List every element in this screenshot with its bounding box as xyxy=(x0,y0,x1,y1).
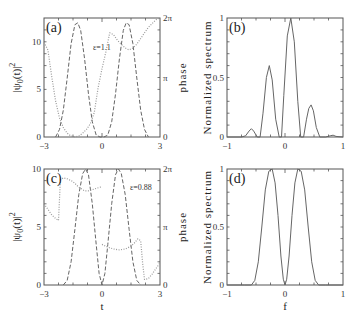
x-tick-label: −3 xyxy=(39,141,49,151)
y-tick-label: 1 xyxy=(220,13,225,23)
epsilon-annotation: ε=0.88 xyxy=(130,183,152,192)
y-tick-label: 0 xyxy=(220,132,225,142)
y2-tick-label: 2π xyxy=(163,13,173,23)
y-axis-title: Normalized spectrum xyxy=(201,21,213,135)
y2-axis-title: phase xyxy=(176,62,188,92)
x-tick-label: 0 xyxy=(100,289,105,299)
x-tick-label: 0 xyxy=(283,289,288,299)
plot-frame xyxy=(227,169,343,285)
y2-tick-label: π xyxy=(163,222,168,232)
y-tick-label: 5 xyxy=(37,222,42,232)
x-tick-label: −3 xyxy=(39,289,49,299)
y2-tick-label: 0 xyxy=(163,132,168,142)
x-tick-label: 0 xyxy=(283,141,288,151)
y2-tick-label: 2π xyxy=(163,164,173,174)
y-tick-label: 0.5 xyxy=(213,222,225,232)
x-tick-label: −1 xyxy=(222,289,232,299)
y-axis-title: Normalized spectrum xyxy=(201,170,213,284)
series-spectrum xyxy=(227,169,343,285)
y-tick-label: 10 xyxy=(32,37,42,47)
y-tick-label: 0.5 xyxy=(213,73,225,83)
x-tick-label: 1 xyxy=(341,289,346,299)
epsilon-annotation: ε=1.1 xyxy=(93,43,111,52)
panel-a-time-domain: −30305100π2π|ψ0(t)|2phase(a)ε=1.1 xyxy=(8,13,188,151)
panel-label: (d) xyxy=(229,171,246,187)
y-tick-label: 5 xyxy=(37,84,42,94)
x-tick-label: 0 xyxy=(100,141,105,151)
y-axis-title: |ψ0(t)|2 xyxy=(8,212,25,242)
x-tick-label: 3 xyxy=(158,141,163,151)
y2-tick-label: 0 xyxy=(163,280,168,290)
x-tick-label: −1 xyxy=(222,141,232,151)
panel-b-spectrum: −10100.51Normalized spectrum(b) xyxy=(201,13,345,151)
panel-c-time-domain: −30305100π2π|ψ0(t)|2phaset(c)ε=0.88 xyxy=(8,164,188,312)
panel-d-spectrum: −10100.51Normalized spectrumf(d) xyxy=(201,164,345,312)
panel-label: (b) xyxy=(229,20,246,36)
x-tick-label: 1 xyxy=(341,141,346,151)
y-tick-label: 1 xyxy=(220,164,225,174)
y-axis-title: |ψ0(t)|2 xyxy=(8,63,25,93)
panel-label: (c) xyxy=(46,171,62,187)
y2-tick-label: π xyxy=(163,73,168,83)
y-tick-label: 0 xyxy=(37,132,42,142)
x-tick-label: 3 xyxy=(158,289,163,299)
y2-axis-title: phase xyxy=(176,212,188,242)
panel-label: (a) xyxy=(46,20,62,36)
x-axis-title: t xyxy=(100,300,103,312)
series-intensity xyxy=(56,23,149,137)
figure: −30305100π2π|ψ0(t)|2phase(a)ε=1.1 −10100… xyxy=(0,0,357,327)
y-tick-label: 10 xyxy=(32,164,42,174)
y-tick-label: 0 xyxy=(220,280,225,290)
series-spectrum xyxy=(227,18,343,137)
y-tick-label: 0 xyxy=(37,280,42,290)
x-axis-title: f xyxy=(283,300,287,312)
